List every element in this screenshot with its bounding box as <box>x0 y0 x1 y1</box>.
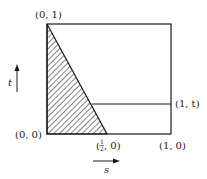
label-right-mid: (1, t) <box>175 98 200 109</box>
unit-square-diagram: (0, 1) (0, 0) ( 1 2 , 0) (1, 0) (1, t) t… <box>0 0 207 179</box>
t-arrowhead-icon <box>15 64 20 71</box>
label-axis-s: s <box>104 164 109 175</box>
label-bottom-right: (1, 0) <box>159 140 186 151</box>
hatched-triangle-region <box>47 24 107 134</box>
label-axis-t: t <box>8 77 13 88</box>
label-top-left: (0, 1) <box>35 9 62 20</box>
label-bottom-mid-close: , 0) <box>104 140 121 151</box>
label-bottom-left: (0, 0) <box>15 129 42 140</box>
s-arrowhead-icon <box>113 159 120 164</box>
